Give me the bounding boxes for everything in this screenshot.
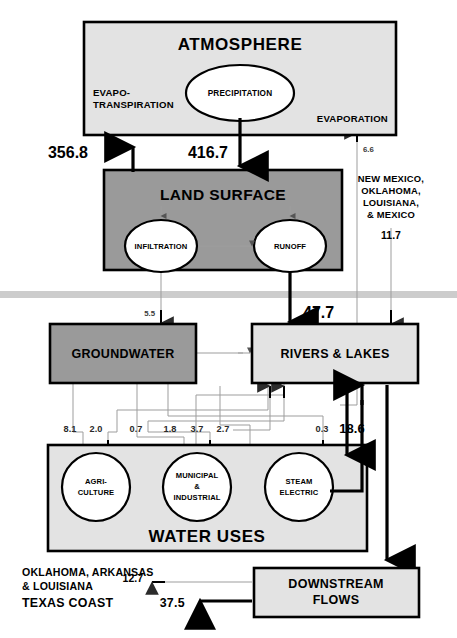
precipitation-label: PRECIPITATION xyxy=(208,89,273,98)
municipal-label-line1: MUNICIPAL xyxy=(176,471,219,480)
steam-label-line2: ELECTRIC xyxy=(280,488,319,497)
connector-gw-municipal xyxy=(137,383,184,452)
water-budget-diagram: ATMOSPHERE EVAPO- TRANSPIRATION EVAPORAT… xyxy=(0,0,457,638)
evapotranspiration-value: 356.8 xyxy=(48,144,88,161)
outflow-coast-value: 37.5 xyxy=(160,596,185,610)
precipitation-value: 416.7 xyxy=(188,144,228,161)
downstream-flows-label-line1: DOWNSTREAM xyxy=(288,577,383,591)
inflow-states-line2: OKLAHOMA, xyxy=(361,185,421,196)
runoff-value: 47.7 xyxy=(303,304,334,321)
gw-steam-value: 0.3 xyxy=(316,424,329,434)
diagram-canvas: ATMOSPHERE EVAPO- TRANSPIRATION EVAPORAT… xyxy=(0,0,457,638)
states-inflow-value: 11.7 xyxy=(381,229,401,241)
connector-rl-agriculture xyxy=(108,410,117,448)
evaporation-label: EVAPORATION xyxy=(317,113,388,124)
connector-gw-steam xyxy=(168,383,323,448)
outflow-states-value: 12.7 xyxy=(123,572,144,584)
water-uses-label: WATER USES xyxy=(148,527,265,546)
municipal-return-value: 3.7 xyxy=(191,424,204,434)
agriculture-ellipse[interactable] xyxy=(62,453,130,521)
agriculture-return-value: 2.7 xyxy=(217,424,230,434)
runoff-label: RUNOFF xyxy=(274,242,306,251)
agriculture-label-line1: AGRI- xyxy=(85,477,107,486)
steam-label-line1: STEAM xyxy=(285,477,312,486)
infiltration-label: INFILTRATION xyxy=(135,242,188,251)
rl-agriculture-value: 2.0 xyxy=(90,424,103,434)
atmosphere-label: ATMOSPHERE xyxy=(178,35,303,54)
land-surface-label: LAND SURFACE xyxy=(160,186,286,203)
inflow-states-line3: LOUISIANA, xyxy=(363,197,419,208)
texas-coast-label: TEXAS COAST xyxy=(22,596,114,610)
inflow-states-line1: NEW MEXICO, xyxy=(358,173,424,184)
steam-electric-ellipse[interactable] xyxy=(265,453,333,521)
groundwater-label: GROUNDWATER xyxy=(71,347,174,361)
gw-municipal-value: 0.7 xyxy=(130,424,143,434)
municipal-label-line2: & xyxy=(194,482,200,491)
evaporation-value: 6.6 xyxy=(363,145,375,154)
outflow-states-line2: & LOUISIANA xyxy=(22,580,93,592)
evapotranspiration-label-line2: TRANSPIRATION xyxy=(93,99,174,110)
evapotranspiration-label-line1: EVAPO- xyxy=(93,87,130,98)
connector-gw-agriculture xyxy=(73,383,83,452)
agriculture-label-line2: CULTURE xyxy=(78,488,114,497)
downstream-flows-label-line2: FLOWS xyxy=(313,593,360,607)
ground-surface-line xyxy=(0,291,457,298)
gw-agriculture-value: 8.1 xyxy=(64,424,77,434)
inflow-states-line4: & MEXICO xyxy=(367,209,415,220)
infiltration-value: 5.5 xyxy=(144,309,156,318)
municipal-label-line3: INDUSTRIAL xyxy=(174,493,221,502)
rl-municipal-value: 1.8 xyxy=(164,424,177,434)
rivers-lakes-label: RIVERS & LAKES xyxy=(280,347,389,361)
